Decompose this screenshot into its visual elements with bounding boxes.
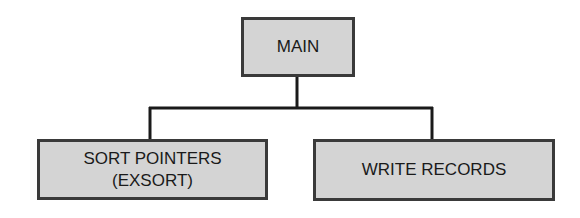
node-sort-pointers-label: SORT POINTERS [83,148,221,170]
node-write-records: WRITE RECORDS [313,139,555,201]
node-main-label: MAIN [277,36,320,58]
node-sort-pointers-sublabel: (EXSORT) [83,170,221,192]
hierarchy-diagram: MAIN SORT POINTERS (EXSORT) WRITE RECORD… [0,0,580,218]
node-sort-pointers: SORT POINTERS (EXSORT) [37,139,268,200]
node-main: MAIN [241,17,355,77]
node-write-records-label: WRITE RECORDS [362,159,507,181]
